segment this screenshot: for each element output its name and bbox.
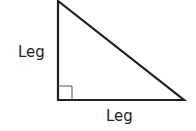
right-triangle-diagram: Leg Leg xyxy=(0,0,196,131)
horizontal-leg-label: Leg xyxy=(106,107,133,125)
right-angle-marker xyxy=(58,86,72,100)
triangle-shape xyxy=(58,1,184,100)
vertical-leg-label: Leg xyxy=(18,43,45,61)
